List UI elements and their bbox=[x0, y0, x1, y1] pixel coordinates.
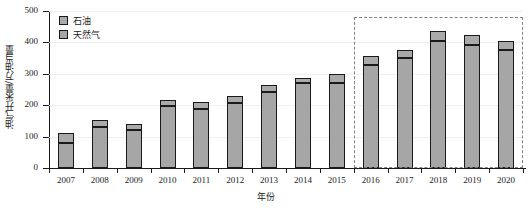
y-tick-label: 500 bbox=[8, 6, 38, 15]
bar-segment-gas bbox=[58, 143, 74, 168]
bar-2015 bbox=[329, 74, 345, 168]
bar-segment-gas bbox=[227, 103, 243, 168]
legend: 石油 天然气 bbox=[57, 11, 106, 43]
x-tick-label-2020: 2020 bbox=[484, 176, 528, 185]
x-tick-mark bbox=[49, 168, 50, 173]
bar-2020 bbox=[498, 41, 514, 168]
bar-segment-gas bbox=[295, 83, 311, 168]
y-axis-title: 油气开采量/万油当量 bbox=[0, 0, 16, 175]
bar-2013 bbox=[261, 85, 277, 168]
legend-item-oil: 石油 bbox=[59, 13, 100, 27]
bar-segment-oil bbox=[498, 41, 514, 49]
bar-segment-oil bbox=[261, 85, 277, 92]
x-tick-mark bbox=[252, 168, 253, 173]
x-tick-mark bbox=[320, 168, 321, 173]
bar-segment-gas bbox=[126, 130, 142, 168]
x-tick-mark bbox=[489, 168, 490, 173]
bar-segment-gas bbox=[397, 58, 413, 168]
bar-segment-gas bbox=[329, 83, 345, 168]
bar-2017 bbox=[397, 50, 413, 168]
gridline bbox=[49, 42, 523, 43]
bar-segment-gas bbox=[92, 127, 108, 168]
legend-swatch-icon-gas bbox=[59, 30, 68, 39]
x-tick-mark bbox=[388, 168, 389, 173]
y-tick-label: 100 bbox=[8, 132, 38, 141]
x-tick-mark bbox=[184, 168, 185, 173]
x-tick-mark bbox=[421, 168, 422, 173]
bar-segment-oil bbox=[58, 133, 74, 143]
plot-area bbox=[49, 11, 523, 168]
x-tick-mark bbox=[83, 168, 84, 173]
bar-2010 bbox=[160, 100, 176, 168]
bar-segment-gas bbox=[261, 92, 277, 168]
y-tick-label: 0 bbox=[8, 163, 38, 172]
bar-2009 bbox=[126, 124, 142, 168]
bar-2007 bbox=[58, 133, 74, 168]
gridline bbox=[49, 11, 523, 12]
bar-2014 bbox=[295, 78, 311, 168]
gridline bbox=[49, 105, 523, 106]
bar-2012 bbox=[227, 96, 243, 168]
gridline bbox=[49, 137, 523, 138]
bar-2018 bbox=[430, 31, 446, 168]
bar-segment-oil bbox=[430, 31, 446, 40]
bar-segment-oil bbox=[397, 50, 413, 58]
legend-label-gas: 天然气 bbox=[73, 28, 100, 41]
bar-segment-gas bbox=[464, 45, 480, 168]
legend-item-gas: 天然气 bbox=[59, 27, 100, 41]
bar-segment-oil bbox=[92, 120, 108, 127]
bar-2019 bbox=[464, 35, 480, 168]
y-tick-label: 300 bbox=[8, 69, 38, 78]
y-tick-label: 400 bbox=[8, 37, 38, 46]
gridline bbox=[49, 74, 523, 75]
bar-segment-gas bbox=[498, 50, 514, 168]
bar-segment-oil bbox=[464, 35, 480, 44]
x-tick-mark bbox=[286, 168, 287, 173]
bar-segment-gas bbox=[160, 106, 176, 168]
bar-segment-gas bbox=[430, 41, 446, 168]
x-tick-mark bbox=[523, 168, 524, 173]
bar-segment-oil bbox=[329, 74, 345, 82]
bar-segment-gas bbox=[193, 109, 209, 168]
x-tick-mark bbox=[455, 168, 456, 173]
x-tick-mark bbox=[117, 168, 118, 173]
bar-segment-oil bbox=[227, 96, 243, 103]
x-tick-mark bbox=[218, 168, 219, 173]
bar-segment-gas bbox=[363, 65, 379, 168]
y-tick-label: 200 bbox=[8, 100, 38, 109]
y-axis-title-text: 油气开采量/万油当量 bbox=[2, 45, 15, 129]
bar-segment-oil bbox=[363, 56, 379, 65]
bar-2016 bbox=[363, 56, 379, 168]
chart-figure: 油气开采量/万油当量 0100200300400500 200720082009… bbox=[0, 0, 531, 212]
x-tick-mark bbox=[354, 168, 355, 173]
bar-2008 bbox=[92, 120, 108, 168]
x-axis-title: 年份 bbox=[0, 190, 531, 203]
legend-label-oil: 石油 bbox=[73, 14, 91, 27]
x-tick-mark bbox=[151, 168, 152, 173]
legend-swatch-icon-oil bbox=[59, 16, 68, 25]
bar-2011 bbox=[193, 102, 209, 168]
